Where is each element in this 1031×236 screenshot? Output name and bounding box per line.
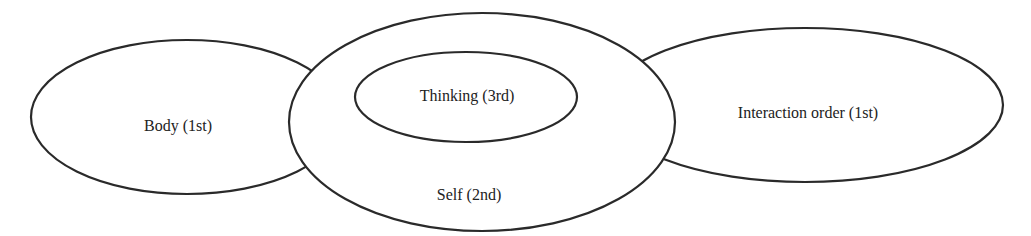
- self-interaction-diagram: Body (1st) Thinking (3rd) Self (2nd) Int…: [0, 0, 1031, 236]
- interaction-order-label: Interaction order (1st): [738, 104, 878, 122]
- thinking-label: Thinking (3rd): [420, 87, 515, 105]
- self-label: Self (2nd): [437, 186, 501, 204]
- body-label: Body (1st): [144, 117, 212, 135]
